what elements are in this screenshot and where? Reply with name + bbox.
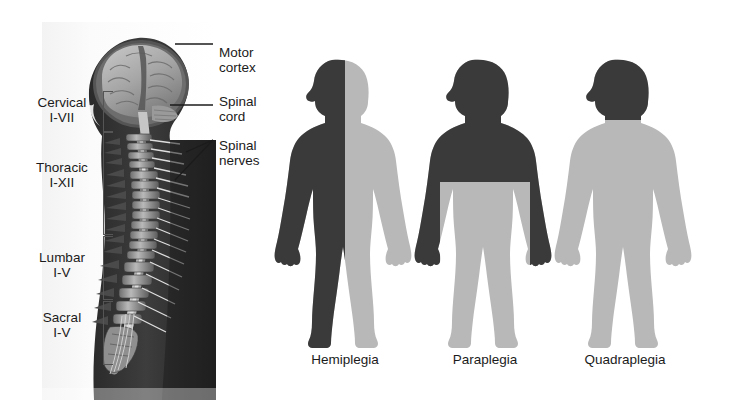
region-label-thoracic: Thoracic I-XII xyxy=(26,160,98,190)
region-label-lumbar: Lumbar I-V xyxy=(26,250,98,280)
region-name-thoracic: Thoracic xyxy=(26,160,98,175)
bracket-sacral xyxy=(103,301,113,365)
bracket-lumbar xyxy=(103,236,113,300)
figure-quadraplegia: Quadraplegia xyxy=(550,52,700,372)
bracket-thoracic xyxy=(103,132,113,235)
region-range-sacral: I-V xyxy=(26,325,98,340)
region-label-sacral: Sacral I-V xyxy=(26,310,98,340)
callout-spinal-cord: Spinal cord xyxy=(219,78,257,125)
figure-paraplegia: Paraplegia xyxy=(410,52,560,372)
figure-caption-hemiplegia: Hemiplegia xyxy=(270,352,420,367)
region-range-cervical: I-VII xyxy=(26,110,98,125)
callout-spinal-nerves: Spinal nerves xyxy=(219,122,260,169)
anatomy-panel xyxy=(42,22,216,400)
hemiplegia-silhouette xyxy=(270,52,420,352)
quadraplegia-silhouette xyxy=(550,52,700,352)
callout-motor-cortex: Motor cortex xyxy=(219,29,256,76)
figure-caption-paraplegia: Paraplegia xyxy=(410,352,560,367)
region-range-lumbar: I-V xyxy=(26,265,98,280)
callout-motor-cortex-label: Motor cortex xyxy=(219,45,256,76)
region-range-thoracic: I-XII xyxy=(26,175,98,190)
callout-spinal-cord-label: Spinal cord xyxy=(219,94,257,125)
paraplegia-silhouette xyxy=(410,52,560,352)
region-name-sacral: Sacral xyxy=(26,310,98,325)
callout-spinal-nerves-label: Spinal nerves xyxy=(219,138,260,169)
bracket-cervical xyxy=(103,91,113,132)
region-name-lumbar: Lumbar xyxy=(26,250,98,265)
figure-caption-quadraplegia: Quadraplegia xyxy=(550,352,700,367)
region-name-cervical: Cervical xyxy=(26,95,98,110)
region-label-cervical: Cervical I-VII xyxy=(26,95,98,125)
figure-hemiplegia: Hemiplegia xyxy=(270,52,420,372)
spinal-anatomy-illustration xyxy=(42,22,216,400)
spinal-injury-diagram: Cervical I-VII Thoracic I-XII Lumbar I-V… xyxy=(0,0,734,413)
